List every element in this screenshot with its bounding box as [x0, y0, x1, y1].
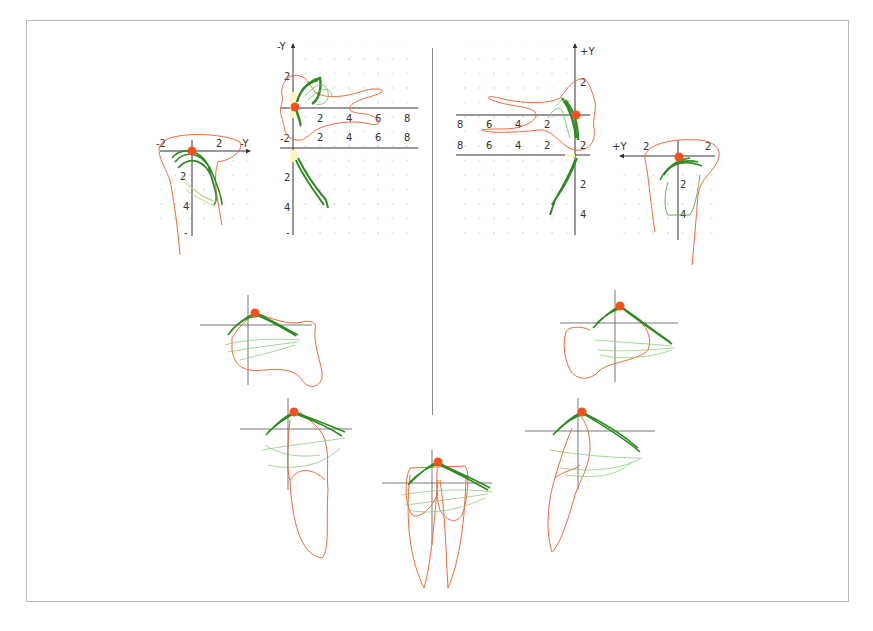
center-of-rotation-dot: [251, 309, 260, 318]
panel-top-left-side: -2 2 -Y 2 4 -: [156, 135, 250, 255]
tick-label: 2: [317, 132, 323, 143]
tick-label: 4: [515, 119, 521, 130]
motion-trace: [228, 313, 298, 336]
tick-label: 2: [544, 119, 550, 130]
axis-label: +Y: [580, 46, 595, 57]
tick-label: 4: [680, 209, 686, 220]
tick-label: 6: [486, 140, 492, 151]
center-of-rotation-dot: [291, 103, 300, 112]
center-of-rotation-dot: [578, 408, 587, 417]
axis-label: +Y: [612, 141, 627, 152]
center-of-rotation-dot: [572, 111, 581, 120]
center-of-rotation-dot: [434, 458, 443, 467]
motion-trace-light: [402, 490, 492, 512]
panel-low-left: [240, 398, 352, 558]
tick-label: 2: [284, 172, 290, 183]
axis-label: -Y: [277, 41, 286, 52]
tick-label: 8: [404, 132, 410, 143]
panel-low-center: [382, 450, 492, 588]
tick-label: 4: [346, 132, 352, 143]
center-of-rotation-dot: [616, 302, 625, 311]
tooth-root-outline: [408, 475, 466, 588]
center-of-rotation-dot: [188, 147, 197, 156]
tick-label: -: [184, 227, 188, 238]
figure-canvas: -2 2 -Y 2 4 - -Y 2 -2 2 4 6 8 2 4 6 8 2 …: [0, 0, 873, 631]
center-of-rotation-dot: [675, 153, 684, 162]
tick-label: 2: [680, 179, 686, 190]
axis-label: -Y: [240, 138, 249, 149]
tick-label: 8: [457, 140, 463, 151]
center-of-rotation-dot: [290, 408, 299, 417]
tooth-outline: [288, 412, 328, 558]
tick-label: 2: [580, 179, 586, 190]
motion-trace: [593, 306, 672, 344]
motion-trace-light: [262, 438, 345, 467]
panel-top-left-main: -Y 2 -2 2 4 6 8 2 4 6 8 2 4 -: [277, 41, 418, 238]
motion-trace-light: [595, 340, 675, 358]
motion-trace: [553, 412, 640, 452]
tick-label: 2: [544, 140, 550, 151]
tick-label: 4: [284, 202, 290, 213]
panel-top-right-main: +Y 2 2 8 6 4 2 8 6 4 2 2 4: [456, 44, 595, 235]
motion-trace-light: [225, 339, 300, 360]
panel-mid-right: [560, 290, 678, 382]
tick-label: 8: [457, 119, 463, 130]
tooth-outline: [548, 415, 590, 552]
tick-label: 8: [404, 113, 410, 124]
tick-label: 4: [515, 140, 521, 151]
tick-label: -: [286, 227, 290, 238]
tick-label: 4: [580, 209, 586, 220]
tick-label: 6: [486, 119, 492, 130]
tick-label: 2: [317, 113, 323, 124]
tick-label: 6: [375, 132, 381, 143]
panel-low-right: [525, 398, 655, 552]
tick-label: -2: [280, 133, 290, 144]
tick-label: 2: [216, 138, 222, 149]
panel-mid-left: [200, 295, 322, 386]
motion-trace: [266, 412, 345, 436]
tick-label: 4: [183, 201, 189, 212]
panel-top-right-side: +Y 2 2 2 4: [612, 140, 719, 265]
